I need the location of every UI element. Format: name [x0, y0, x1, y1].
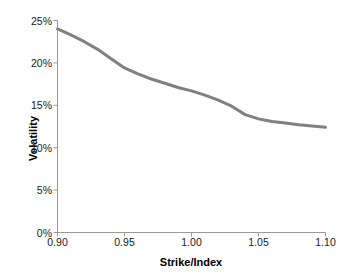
axis-tick-marks — [54, 21, 326, 237]
axis-lines — [58, 20, 326, 233]
series-lines — [58, 29, 326, 127]
plot-area — [0, 0, 341, 277]
volatility-skew-chart: Volatility 0%5%10%15%20%25% 0.900.951.00… — [0, 0, 341, 277]
series-line — [58, 29, 326, 127]
